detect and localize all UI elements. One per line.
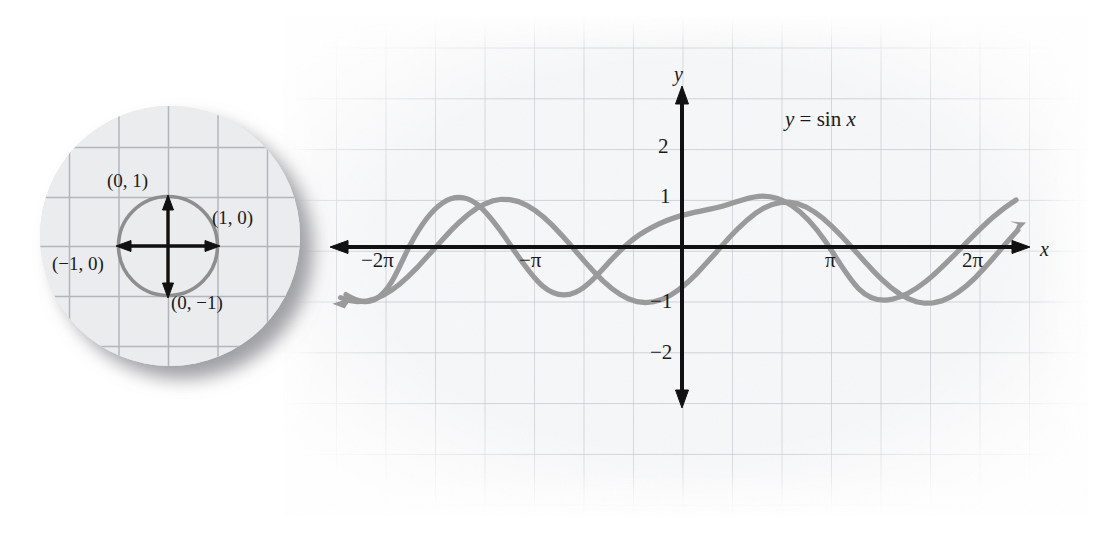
y-tick-label-1: 1 [660,186,671,207]
inset-point-label-right: (1, 0) [212,208,253,227]
y-tick-label-2: 2 [658,136,669,157]
y-tick-label-neg2: −2 [650,342,672,363]
x-axis-label: x [1040,239,1049,259]
y-axis-arrow-up [676,86,689,104]
x-axis-arrow-right [1012,241,1030,254]
x-tick-label-negpi: −π [519,250,541,271]
y-axis-label: y [674,64,683,84]
x-tick-label-pi: π [825,250,836,271]
inset-point-label-bottom: (0, −1) [171,293,223,312]
equation-rel: = [800,107,812,131]
x-tick-label-neg2pi: −2π [361,250,394,271]
y-tick-label-neg1: −1 [650,291,672,312]
equation-label: y = sin x [785,109,856,130]
equation-lhs: y [785,107,794,131]
x-tick-label-2pi: 2π [962,250,983,271]
inset-point-label-left: (−1, 0) [52,254,104,273]
axes-layer [0,0,1119,535]
inset-point-label-top: (0, 1) [107,171,148,190]
x-axis-arrow-left [330,241,348,254]
equation-var: x [846,107,855,131]
y-axis-arrow-down [676,390,689,408]
figure-unit-circle-and-sine-graph: (0, 1) (1, 0) (−1, 0) (0, −1) y x 2 1 −1… [0,0,1119,535]
equation-fn: sin [817,107,842,131]
inset-axes-and-circle [116,195,220,298]
